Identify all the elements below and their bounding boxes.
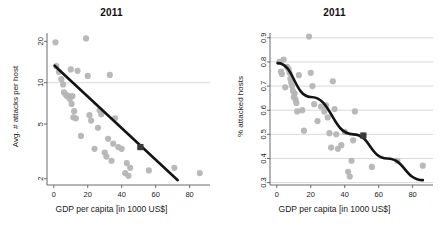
svg-text:0.7: 0.7 (260, 81, 269, 91)
svg-text:0.6: 0.6 (260, 105, 269, 115)
svg-text:20: 20 (307, 190, 315, 199)
figure-two-panel-scatter: 2011 Avg. # attacks per host GDP per cap… (0, 0, 446, 227)
svg-text:0.4: 0.4 (260, 153, 269, 163)
svg-text:10: 10 (37, 79, 46, 87)
svg-text:0.3: 0.3 (260, 177, 269, 187)
svg-text:40: 40 (118, 190, 126, 199)
svg-text:60: 60 (151, 190, 159, 199)
svg-text:2: 2 (37, 177, 46, 181)
svg-text:20: 20 (84, 190, 92, 199)
svg-text:60: 60 (374, 190, 382, 199)
svg-text:0: 0 (52, 190, 56, 199)
svg-text:0.8: 0.8 (260, 57, 269, 67)
panel-right: 2011 % attacked hosts GDP per capita [in… (223, 0, 446, 227)
panel-left-plot: 251020020406080 (0, 0, 223, 227)
svg-text:20: 20 (37, 37, 46, 45)
svg-text:0.5: 0.5 (260, 129, 269, 139)
svg-text:0: 0 (275, 190, 279, 199)
svg-text:0.9: 0.9 (260, 33, 269, 43)
svg-text:40: 40 (341, 190, 349, 199)
svg-text:5: 5 (37, 122, 46, 126)
svg-text:80: 80 (408, 190, 416, 199)
panel-left: 2011 Avg. # attacks per host GDP per cap… (0, 0, 223, 227)
svg-text:80: 80 (185, 190, 193, 199)
panel-right-plot: 0.30.40.50.60.70.80.9020406080 (223, 0, 446, 227)
